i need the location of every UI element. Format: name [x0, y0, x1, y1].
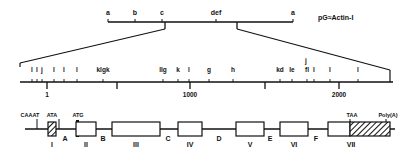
site-label: l [76, 66, 78, 73]
sequence-element: TAA [347, 112, 358, 122]
site-marker: j [304, 57, 307, 65]
exon: IV [178, 122, 202, 148]
scale-tick: 1 [45, 82, 49, 98]
exon-label: II [84, 141, 88, 148]
plasmid-title: pG≈Actin-I [318, 14, 353, 22]
restriction-site: a [106, 9, 110, 22]
site-marker: l [313, 66, 315, 82]
expanded-scale-map: lljlllklgkllgklghkdlejfllll 110002000 [20, 57, 393, 98]
gene-structure: CAAATATAATGTAAPoly(A) IIIIIIIVVVIVII ABC… [21, 112, 398, 148]
site-marker: l [357, 66, 359, 82]
site-label: a [291, 9, 295, 16]
exon-label: III [133, 141, 139, 148]
restriction-site: def [211, 9, 222, 22]
element-label: ATA [47, 112, 58, 118]
site-label: def [211, 9, 222, 16]
sequence-element: CAAAT [21, 112, 40, 129]
site-marker: k [176, 66, 180, 82]
exon-label: I [51, 141, 53, 148]
site-marker: llg [159, 66, 167, 82]
site-label: l [31, 66, 33, 73]
intron-label: F [314, 135, 319, 142]
exon-label: VI [291, 141, 298, 148]
site-label: l [36, 66, 38, 73]
element-label: ATG [72, 112, 83, 118]
exon-label: VII [347, 141, 356, 148]
exon-label: V [248, 141, 253, 148]
site-label: a [106, 9, 110, 16]
site-marker: fl [305, 66, 309, 82]
site-label: fl [305, 66, 309, 73]
site-label: j [40, 66, 43, 74]
site-marker: le [289, 66, 295, 82]
site-label: c [160, 9, 164, 16]
site-marker: j [40, 66, 43, 82]
site-label: klgk [96, 66, 109, 74]
site-marker: g [207, 66, 211, 82]
scale-tick: 2000 [332, 82, 347, 98]
site-label: b [133, 9, 137, 16]
exon-label: IV [187, 141, 194, 148]
element-label: TAA [347, 112, 358, 118]
site-marker: kd [276, 66, 284, 82]
intron-label: D [216, 135, 221, 142]
intron-label: C [165, 135, 170, 142]
exon [350, 122, 390, 136]
site-label: l [53, 66, 55, 73]
site-marker: l [63, 66, 65, 82]
site-label: llg [159, 66, 167, 74]
site-marker: l [188, 66, 190, 82]
site-label: k [176, 66, 180, 73]
site-label: l [63, 66, 65, 73]
actin-gene-map-diagram: pG≈Actin-I abcdefa lljlllklgkllgklghkdle… [0, 0, 413, 164]
site-label: l [313, 66, 315, 73]
site-label: j [304, 57, 307, 65]
site-marker: h [231, 66, 235, 82]
restriction-site: b [133, 9, 137, 22]
restriction-site: c [160, 9, 164, 22]
tick-label: 1000 [183, 91, 198, 98]
site-label: l [357, 66, 359, 73]
site-marker: l [76, 66, 78, 82]
sequence-element: Poly(A) [378, 112, 397, 122]
site-marker: klgk [96, 66, 109, 82]
scale-tick: 1000 [183, 82, 198, 98]
intron-label: E [268, 135, 273, 142]
exon: II [76, 122, 96, 148]
exon: V [236, 122, 264, 148]
exon: III [112, 122, 160, 148]
element-label: CAAAT [21, 112, 40, 118]
exon: I [48, 122, 56, 148]
site-marker: l [36, 66, 38, 82]
site-label: g [207, 66, 211, 74]
site-marker: l [31, 66, 33, 82]
element-label: Poly(A) [378, 112, 397, 118]
site-label: le [289, 66, 295, 73]
site-marker: l [53, 66, 55, 82]
site-label: l [188, 66, 190, 73]
site-marker: l [329, 66, 331, 82]
intron-label: B [100, 135, 105, 142]
site-label: kd [276, 66, 284, 73]
tick-label: 2000 [332, 91, 347, 98]
tick-label: 1 [45, 91, 49, 98]
restriction-site: a [291, 9, 295, 22]
intron-label: A [62, 135, 67, 142]
site-label: l [329, 66, 331, 73]
site-label: h [231, 66, 235, 73]
exon: VI [280, 122, 308, 148]
